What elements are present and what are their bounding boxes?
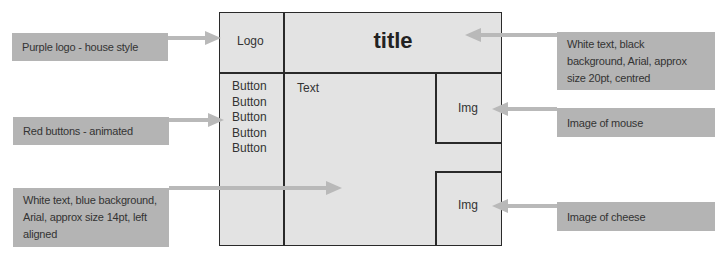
- cheese-arrow: [507, 204, 557, 208]
- title-annotation-text: White text, black background, Arial, app…: [567, 36, 705, 87]
- mouse-arrowhead: [492, 102, 508, 116]
- image-cheese-placeholder: Img: [458, 198, 478, 212]
- mouse-annotation: Image of mouse: [557, 108, 715, 137]
- image-bottom-top-border: [435, 171, 502, 173]
- logo-placeholder: Logo: [237, 34, 264, 48]
- header-divider: [219, 72, 502, 74]
- sidebar-button[interactable]: Button: [232, 110, 267, 126]
- image-bottom-left-border: [435, 171, 437, 246]
- buttons-arrowhead: [208, 113, 224, 127]
- logo-arrowhead: [205, 31, 221, 45]
- logo-annotation: Purple logo - house style: [12, 33, 168, 61]
- cheese-annotation-text: Image of cheese: [567, 209, 645, 225]
- buttons-arrow: [169, 118, 211, 122]
- mouse-annotation-text: Image of mouse: [567, 115, 643, 131]
- mouse-arrow: [507, 107, 557, 111]
- buttons-annotation-text: Red buttons - animated: [23, 123, 133, 139]
- logo-annotation-text: Purple logo - house style: [22, 39, 138, 55]
- cheese-arrowhead: [492, 199, 508, 213]
- text-annotation-text: White text, blue background, Arial, appr…: [23, 192, 159, 243]
- image-mouse-placeholder: Img: [458, 101, 478, 115]
- image-top-bottom-border: [435, 142, 502, 144]
- text-arrow: [169, 186, 329, 190]
- sidebar-button[interactable]: Button: [232, 79, 267, 95]
- sidebar-button[interactable]: Button: [232, 141, 267, 157]
- text-annotation: White text, blue background, Arial, appr…: [13, 188, 169, 247]
- text-placeholder: Text: [297, 81, 319, 95]
- image-top-left-border: [435, 72, 437, 143]
- logo-arrow: [168, 36, 208, 40]
- title-annotation: White text, black background, Arial, app…: [557, 32, 715, 90]
- button-list: Button Button Button Button Button: [232, 79, 267, 157]
- sidebar-button[interactable]: Button: [232, 126, 267, 142]
- text-arrowhead: [326, 181, 342, 195]
- title-arrow: [480, 33, 557, 37]
- cheese-annotation: Image of cheese: [557, 202, 715, 231]
- sidebar-button[interactable]: Button: [232, 95, 267, 111]
- buttons-annotation: Red buttons - animated: [13, 117, 169, 145]
- title-arrowhead: [465, 28, 481, 42]
